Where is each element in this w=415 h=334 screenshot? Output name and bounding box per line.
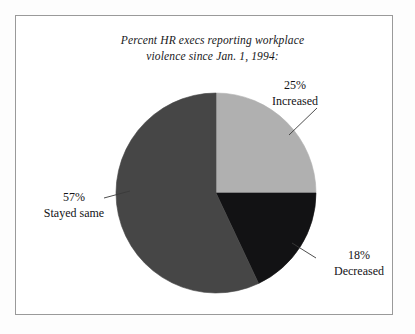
slice-label-decreased: 18% Decreased <box>318 248 400 279</box>
slice-label-stayed-same: 57% Stayed same <box>22 190 126 221</box>
slice-label-increased: 25% Increased <box>246 78 344 109</box>
pie-slices <box>116 93 316 293</box>
slice-category-increased: Increased <box>246 94 344 110</box>
leader-line-increased <box>289 108 317 135</box>
pie-chart-figure: Percent HR execs reporting workplace vio… <box>0 0 415 334</box>
slice-percent-increased: 25% <box>246 78 344 94</box>
slice-percent-decreased: 18% <box>318 248 400 264</box>
slice-category-decreased: Decreased <box>318 264 400 280</box>
pie-graphic <box>0 0 415 334</box>
slice-category-stayed-same: Stayed same <box>22 206 126 222</box>
slice-percent-stayed-same: 57% <box>22 190 126 206</box>
